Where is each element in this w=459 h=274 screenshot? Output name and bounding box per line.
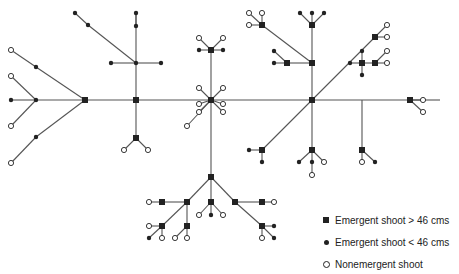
- emergent-large-node: [259, 223, 265, 229]
- nonemergent-node: [196, 101, 201, 106]
- nonemergent-node: [321, 159, 326, 164]
- emergent-small-node: [34, 98, 38, 102]
- emergent-small-node: [272, 49, 276, 53]
- nonemergent-node: [8, 73, 13, 78]
- emergent-small-node: [310, 11, 314, 15]
- nonemergent-node: [384, 60, 389, 65]
- emergent-large-node: [259, 199, 265, 205]
- emergent-small-node: [159, 61, 163, 65]
- nonemergent-node: [184, 235, 189, 240]
- emergent-large-node: [309, 147, 315, 153]
- emergent-large-node: [208, 47, 214, 53]
- emergent-large-node: [359, 60, 365, 66]
- legend-label: Emergent shoot > 46 cms: [335, 215, 449, 226]
- emergent-large-node: [407, 97, 413, 103]
- nonemergent-node: [384, 22, 389, 27]
- nonemergent-node: [220, 35, 225, 40]
- nonemergent-node: [196, 85, 201, 90]
- open-circle-icon: [321, 259, 335, 269]
- emergent-large-node: [309, 97, 315, 103]
- nonemergent-node: [359, 159, 364, 164]
- nonemergent-node: [184, 123, 189, 128]
- branch-line: [312, 37, 375, 100]
- emergent-large-node: [259, 22, 265, 28]
- emergent-small-node: [147, 236, 151, 240]
- branch-line: [75, 13, 88, 25]
- nonemergent-node: [420, 109, 425, 114]
- nonemergent-node: [172, 235, 177, 240]
- legend-item-nonemergent: Nonemergent shoot: [321, 253, 449, 274]
- branch-line: [11, 76, 36, 100]
- emergent-small-node: [9, 98, 13, 102]
- nonemergent-node: [121, 147, 126, 152]
- branch-line: [36, 100, 85, 137]
- branch-line: [262, 25, 312, 63]
- nonemergent-node: [246, 10, 251, 15]
- emergent-small-node: [109, 61, 113, 65]
- branch-line: [211, 177, 235, 202]
- nonemergent-node: [384, 34, 389, 39]
- nonemergent-node: [220, 85, 225, 90]
- emergent-large-node: [309, 60, 315, 66]
- nonemergent-node: [8, 47, 13, 52]
- emergent-small-node: [373, 160, 377, 164]
- emergent-large-node: [159, 223, 165, 229]
- emergent-small-node: [86, 23, 90, 27]
- emergent-small-node: [322, 11, 326, 15]
- emergent-small-node: [260, 160, 264, 164]
- nonemergent-node: [8, 123, 13, 128]
- emergent-small-node: [272, 61, 276, 65]
- emergent-small-node: [34, 65, 38, 69]
- nonemergent-node: [145, 147, 150, 152]
- emergent-small-node: [298, 11, 302, 15]
- branch-line: [11, 137, 36, 163]
- emergent-large-node: [284, 60, 290, 66]
- emergent-small-node: [348, 61, 352, 65]
- nonemergent-node: [246, 22, 251, 27]
- emergent-small-node: [134, 24, 138, 28]
- legend-label: Emergent shoot < 46 cms: [335, 237, 449, 248]
- branch-line: [36, 67, 85, 100]
- emergent-small-node: [310, 160, 314, 164]
- emergent-large-node: [372, 34, 378, 40]
- nonemergent-node: [220, 109, 225, 114]
- emergent-large-node: [359, 147, 365, 153]
- emergent-large-node: [184, 199, 190, 205]
- emergent-large-node: [259, 147, 265, 153]
- emergent-small-node: [73, 11, 77, 15]
- emergent-large-node: [372, 60, 378, 66]
- nonemergent-node: [196, 212, 201, 217]
- nonemergent-node: [146, 223, 151, 228]
- emergent-small-node: [360, 49, 364, 53]
- nonemergent-node: [8, 160, 13, 165]
- filled-square-icon: [321, 215, 335, 225]
- emergent-small-node: [221, 48, 225, 52]
- emergent-small-node: [272, 236, 276, 240]
- branch-line: [187, 177, 211, 202]
- branch-line: [88, 25, 136, 63]
- nonemergent-node: [259, 10, 264, 15]
- emergent-large-node: [82, 97, 88, 103]
- nonemergent-node: [159, 235, 164, 240]
- nonemergent-node: [420, 97, 425, 102]
- emergent-small-node: [272, 224, 276, 228]
- branch-lines: [11, 13, 440, 238]
- emergent-large-node: [232, 199, 238, 205]
- emergent-large-node: [133, 97, 139, 103]
- emergent-small-node: [34, 135, 38, 139]
- emergent-small-node: [134, 61, 138, 65]
- emergent-small-node: [360, 73, 364, 77]
- emergent-small-node: [197, 48, 201, 52]
- emergent-large-node: [184, 223, 190, 229]
- legend-item-emergent-small: Emergent shoot < 46 cms: [321, 231, 449, 253]
- branch-line: [262, 100, 312, 150]
- emergent-large-node: [208, 174, 214, 180]
- nonemergent-node: [384, 48, 389, 53]
- branch-line: [162, 202, 187, 226]
- legend-item-emergent-large: Emergent shoot > 46 cms: [321, 209, 449, 231]
- branch-line: [235, 202, 262, 226]
- emergent-small-node: [247, 148, 251, 152]
- nonemergent-node: [220, 212, 225, 217]
- branch-line: [11, 100, 36, 126]
- shoot-nodes: [8, 10, 425, 240]
